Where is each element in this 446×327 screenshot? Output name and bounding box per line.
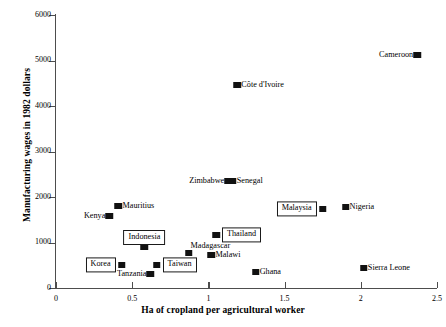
data-point-marker[interactable] xyxy=(106,213,114,219)
x-tick-label: 2.5 xyxy=(432,294,442,303)
x-tick-label: 1 xyxy=(206,294,210,303)
y-tick-label: 5000 xyxy=(35,55,51,64)
y-tick-label: 0 xyxy=(47,283,51,292)
data-point-marker[interactable] xyxy=(319,206,327,212)
x-axis-line xyxy=(55,288,437,289)
data-point-marker[interactable] xyxy=(234,82,242,88)
x-tick-mark xyxy=(208,282,209,288)
data-point-label: Malawi xyxy=(215,251,240,259)
x-tick-mark xyxy=(56,282,57,288)
y-axis-line xyxy=(55,14,56,289)
y-tick-label: 4000 xyxy=(35,101,51,110)
x-tick-label: 0 xyxy=(54,294,58,303)
x-tick-label: 2 xyxy=(359,294,363,303)
data-point-label: Korea xyxy=(86,257,116,272)
data-point-label: Mauritius xyxy=(122,202,154,210)
data-point-label: Senegal xyxy=(237,177,263,185)
data-point-label: Cameroon xyxy=(379,51,413,59)
data-point-marker[interactable] xyxy=(118,262,126,268)
data-point-label: Ghana xyxy=(260,268,281,276)
x-tick-mark xyxy=(132,282,133,288)
data-point-marker[interactable] xyxy=(147,271,155,277)
x-tick-label: 1.5 xyxy=(280,294,290,303)
y-tick-label: 3000 xyxy=(35,146,51,155)
data-point-marker[interactable] xyxy=(212,232,220,238)
data-point-label: Malaysia xyxy=(277,201,317,216)
data-point-marker[interactable] xyxy=(185,250,193,256)
y-tick-label: 6000 xyxy=(35,10,51,19)
data-point-label: Côte d'Ivoire xyxy=(241,81,284,89)
data-point-marker[interactable] xyxy=(360,265,368,271)
x-tick-mark xyxy=(361,282,362,288)
y-tick-label: 2000 xyxy=(35,192,51,201)
data-point-marker[interactable] xyxy=(342,204,350,210)
data-point-label: Indonesia xyxy=(123,230,165,245)
data-point-label: Zimbabwe xyxy=(189,177,224,185)
x-axis-label: Ha of cropland per agricultural worker xyxy=(0,305,446,315)
data-point-marker[interactable] xyxy=(115,203,123,209)
data-point-label: Tanzania xyxy=(117,270,146,278)
x-tick-mark xyxy=(285,282,286,288)
data-point-label: Sierra Leone xyxy=(368,264,410,272)
x-tick-mark xyxy=(437,282,438,288)
data-point-marker[interactable] xyxy=(252,269,260,275)
data-point-marker[interactable] xyxy=(229,178,237,184)
data-point-marker[interactable] xyxy=(153,262,161,268)
data-point-marker[interactable] xyxy=(208,252,216,258)
data-point-label: Kenya xyxy=(84,212,105,220)
x-tick-label: 0.5 xyxy=(127,294,137,303)
y-tick-label: 1000 xyxy=(35,237,51,246)
y-axis-label: Manufacturing wages in 1982 dollars xyxy=(22,25,32,265)
data-point-marker[interactable] xyxy=(413,52,421,58)
data-point-label: Taiwan xyxy=(163,257,197,272)
data-point-label: Nigeria xyxy=(350,203,375,211)
scatter-chart: Manufacturing wages in 1982 dollars Ha o… xyxy=(0,0,446,327)
